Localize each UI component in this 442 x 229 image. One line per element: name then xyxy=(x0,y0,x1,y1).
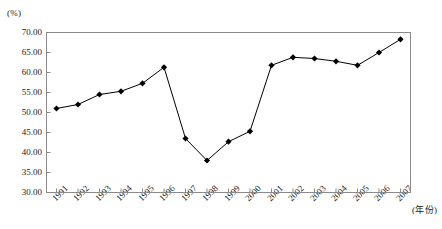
data-point-marker xyxy=(354,62,360,68)
data-point-marker xyxy=(311,55,317,61)
data-point-marker xyxy=(247,128,253,134)
data-point-marker xyxy=(376,49,382,55)
y-axis-ticks xyxy=(47,53,51,173)
data-point-marker xyxy=(96,91,102,97)
data-point-marker xyxy=(118,88,124,94)
data-point-marker xyxy=(268,62,274,68)
data-point-marker xyxy=(290,54,296,60)
data-point-marker xyxy=(75,101,81,107)
data-point-marker xyxy=(53,105,59,111)
data-point-marker xyxy=(397,36,403,42)
x-axis-ticks xyxy=(57,189,401,193)
data-series-markers xyxy=(53,36,403,163)
plot-area xyxy=(0,0,442,229)
line-chart: (%) (年份) 70.0065.0060.0055.0050.0045.004… xyxy=(0,0,442,229)
data-point-marker xyxy=(333,58,339,64)
plot-border xyxy=(47,33,411,193)
